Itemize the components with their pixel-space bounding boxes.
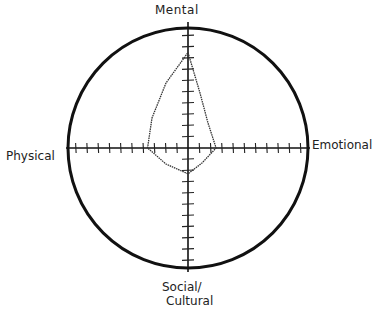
wellness-quadrant-diagram bbox=[0, 0, 372, 320]
axis-label-emotional: Emotional bbox=[312, 139, 372, 153]
axis-label-physical: Physical bbox=[6, 150, 55, 164]
axis-label-social: Social/ bbox=[162, 281, 213, 295]
axis-label-social-cultural: Social/ Cultural bbox=[162, 281, 213, 309]
profile-shape bbox=[148, 52, 217, 173]
axis-label-mental: Mental bbox=[155, 4, 199, 18]
axis-label-cultural: Cultural bbox=[162, 295, 213, 309]
